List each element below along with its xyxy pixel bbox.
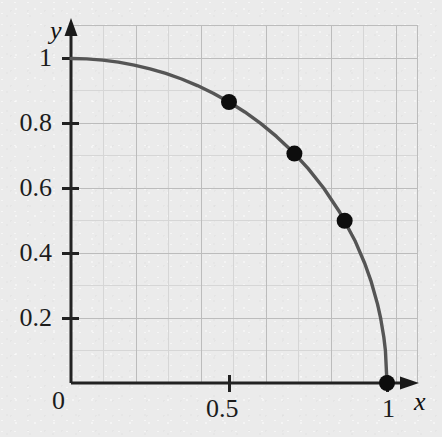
data-point [337,213,353,229]
x-axis-label: x [414,389,426,415]
data-point [379,375,395,391]
y-tick-label-1: 1 [6,45,52,71]
data-point [221,94,237,110]
x-tick-label-0.5: 0.5 [206,396,239,422]
x-tick-label-1: 1 [382,396,395,422]
y-axis-label: y [50,18,62,44]
x-tick-label-0: 0 [52,388,65,414]
y-tick-label-0.4: 0.4 [6,240,52,266]
y-tick-label-0.8: 0.8 [6,110,52,136]
grid-minor [71,25,417,383]
quarter-circle-plot [0,0,442,437]
y-tick-label-0.2: 0.2 [6,305,52,331]
y-tick-label-0.6: 0.6 [6,175,52,201]
y-axis [65,18,78,383]
x-axis [71,377,419,390]
data-points [221,94,395,391]
data-point [286,146,302,162]
chart-figure: 1 0.8 0.6 0.4 0.2 0 0.5 1 y x [0,0,442,437]
grid-major [71,25,418,383]
